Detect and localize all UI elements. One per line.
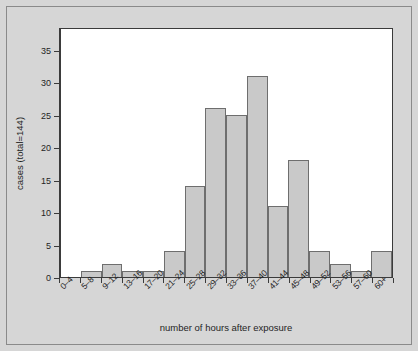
x-axis-title: number of hours after exposure bbox=[59, 322, 393, 333]
histogram-bar bbox=[185, 186, 206, 277]
bar-series bbox=[60, 29, 392, 277]
bar-slot bbox=[268, 29, 289, 277]
histogram-bar bbox=[247, 76, 268, 277]
y-axis-tick bbox=[54, 246, 59, 247]
bar-slot bbox=[81, 29, 102, 277]
histogram-figure: 05101520253035 0–45–89–1213–1617–2021–24… bbox=[0, 0, 418, 351]
y-axis-tick-label: 35 bbox=[41, 46, 51, 56]
y-axis-title-text: cases (total=144) bbox=[15, 116, 26, 189]
bar-slot bbox=[143, 29, 164, 277]
bar-slot bbox=[309, 29, 330, 277]
bar-slot bbox=[164, 29, 185, 277]
histogram-bar bbox=[205, 108, 226, 277]
y-axis-tick bbox=[54, 181, 59, 182]
y-axis-tick-label: 20 bbox=[41, 143, 51, 153]
y-axis-line bbox=[59, 28, 61, 278]
y-axis-tick bbox=[54, 51, 59, 52]
y-axis-tick-label: 15 bbox=[41, 176, 51, 186]
histogram-bar bbox=[226, 115, 247, 277]
y-axis-tick-label: 10 bbox=[41, 208, 51, 218]
histogram-bar bbox=[288, 160, 309, 277]
y-axis-tick-label: 5 bbox=[46, 241, 51, 251]
bar-slot bbox=[247, 29, 268, 277]
bar-slot bbox=[226, 29, 247, 277]
y-axis-title: cases (total=144) bbox=[13, 28, 27, 278]
bar-slot bbox=[288, 29, 309, 277]
bar-slot bbox=[351, 29, 372, 277]
plot-inner-area bbox=[60, 29, 392, 277]
bar-slot bbox=[122, 29, 143, 277]
y-axis-tick bbox=[54, 213, 59, 214]
bar-slot bbox=[102, 29, 123, 277]
y-axis-tick-label: 0 bbox=[46, 273, 51, 283]
y-axis-tick-label: 25 bbox=[41, 111, 51, 121]
y-axis-tick bbox=[54, 148, 59, 149]
x-axis-tick-labels: 0–45–89–1213–1617–2021–2425–2829–3233–36… bbox=[59, 284, 393, 318]
y-axis-tick bbox=[54, 116, 59, 117]
plot-panel bbox=[59, 28, 393, 278]
bar-slot bbox=[330, 29, 351, 277]
y-axis-tick bbox=[54, 83, 59, 84]
bar-slot bbox=[371, 29, 392, 277]
bar-slot bbox=[205, 29, 226, 277]
x-axis-tick bbox=[393, 278, 394, 283]
histogram-bar bbox=[268, 206, 289, 277]
bar-slot bbox=[60, 29, 81, 277]
y-axis-tick-label: 30 bbox=[41, 78, 51, 88]
bar-slot bbox=[185, 29, 206, 277]
